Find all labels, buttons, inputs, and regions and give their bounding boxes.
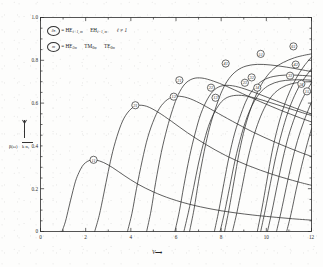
legend-row-2-wrap: m = HE2m TM0m TE0m [47,42,115,52]
x-axis-label: V⟶ [152,250,162,256]
mode-label-15: 15 [303,88,310,95]
legend: ℓn = HEℓ+1, m EHℓ−1, m ℓ ≠ 1 [47,26,127,36]
mode-label-32: 32 [248,74,255,81]
mode-label-11: 11 [90,156,97,163]
y-axis-label: β(ω) k n₁ [9,120,39,166]
y-axis-denominator: k n₁ [22,144,29,149]
x-tick-label: 6 [175,234,178,240]
legend-row-2: m = HE2m TM0m TE0m [47,43,115,49]
x-tick-label: 2 [84,234,87,240]
svg-text:23: 23 [243,80,247,85]
legend-equals-1: = [61,27,64,33]
curve-group [62,54,312,232]
x-tick-label: 8 [220,234,223,240]
y-tick-label: 1.0 [32,14,39,20]
mode-label-13: 13 [212,94,219,101]
mode-label-41: 41 [222,60,229,67]
mode-label-31: 31 [176,77,183,84]
x-tick-label: 0 [39,234,42,240]
legend-equals-2: = [61,43,64,49]
curve-12 [127,96,311,231]
legend-condition: ℓ ≠ 1 [117,27,127,33]
legend-marker-circle-1: ℓn [47,26,60,36]
legend-sub-1: ℓ+1, m [72,30,82,34]
mode-label-24: 24 [298,80,305,87]
svg-text:33: 33 [288,73,292,78]
y-origin-label: 0 [35,228,38,234]
curve-33 [267,83,311,232]
svg-text:51: 51 [259,52,263,57]
y-tick-label: 0.6 [32,100,39,106]
legend-sub-2: ℓ−1, m [97,30,107,34]
svg-text:61: 61 [291,44,295,49]
legend-row-1: ℓn = HEℓ+1, m EHℓ−1, m ℓ ≠ 1 [47,27,127,33]
mode-label-23: 23 [241,79,248,86]
svg-text:13: 13 [213,95,217,100]
svg-text:31: 31 [177,78,181,83]
dispersion-plot: 0246810120.20.40.60.81.00112112312213413… [0,0,323,267]
x-tick-label: 12 [309,234,315,240]
y-axis-numerator: β(ω) [9,144,17,149]
y-axis-fraction-bar [22,142,33,143]
svg-text:11: 11 [92,158,96,163]
figure-canvas: 0246810120.20.40.60.81.00112112312213413… [0,0,323,267]
mode-label-22: 22 [207,84,214,91]
curve-15 [287,129,312,232]
x-axis-label-arrow: ⟶ [155,250,162,255]
legend-sub-5: 0m [110,46,114,50]
y-tick-label: 0.8 [32,57,39,63]
curve-21 [95,105,312,231]
svg-text:41: 41 [224,61,228,66]
legend-sub-3: 2m [72,46,76,50]
curve-24 [277,102,312,231]
plot-svg-layer: 0246810120.20.40.60.81.00112112312213413… [0,0,323,267]
mode-label-51: 51 [257,50,264,57]
svg-text:21: 21 [133,103,137,108]
mode-label-21: 21 [132,102,139,109]
mode-label-12: 12 [170,93,177,100]
mode-label-42: 42 [292,61,299,68]
curve-51 [225,54,312,232]
legend-marker-circle-2: m [47,42,60,52]
mode-label-61: 61 [290,43,297,50]
mode-label-14: 14 [254,84,261,91]
x-tick-label: 10 [264,234,270,240]
mode-label-33: 33 [286,72,293,79]
legend-sub-4: 0m [92,46,96,50]
y-tick-label: 0.2 [32,186,39,192]
legend-term-tm: TM [84,43,92,49]
x-tick-label: 4 [130,234,133,240]
